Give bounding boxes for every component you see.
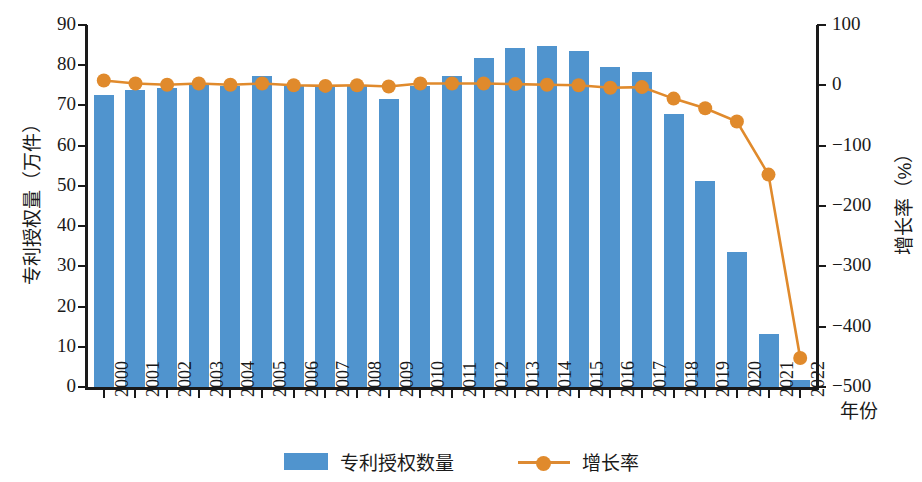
legend-item-bars: 专利授权数量 (284, 448, 454, 475)
x-tickmark (673, 390, 675, 398)
line-marker (318, 79, 332, 93)
y-left-tick-label: 80 (32, 54, 76, 73)
line-marker (223, 78, 237, 92)
x-tickmark (704, 390, 706, 398)
x-tickmark (546, 390, 548, 398)
line-marker (508, 77, 522, 91)
line-marker (192, 77, 206, 91)
y-left-tick-label: 50 (32, 175, 76, 194)
x-tickmark (578, 390, 580, 398)
patent-grant-chart: 专利授权量（万件） 增长率（%） 年份 0102030405060708090 … (0, 0, 922, 482)
x-tick-label: 2009 (397, 361, 418, 397)
y-right-tick-label: 100 (832, 14, 902, 33)
x-tick-label: 2013 (523, 361, 544, 397)
x-tickmark (451, 390, 453, 398)
x-tick-label: 2021 (777, 361, 798, 397)
x-tick-label: 2022 (808, 361, 829, 397)
x-tick-label: 2011 (460, 362, 481, 397)
line-marker (287, 78, 301, 92)
x-tickmark (324, 390, 326, 398)
x-tick-label: 2014 (555, 361, 576, 397)
y-left-tick-label: 0 (32, 376, 76, 395)
x-tickmark (768, 390, 770, 398)
line-marker (572, 78, 586, 92)
x-tick-label: 2003 (207, 361, 228, 397)
y-right-tick-label: −300 (832, 255, 902, 274)
x-tick-label: 2006 (302, 361, 323, 397)
x-tick-label: 2012 (492, 361, 513, 397)
plot-area (88, 25, 816, 387)
x-tick-label: 2004 (238, 361, 259, 397)
x-tickmark (166, 390, 168, 398)
y-left-tick-label: 70 (32, 94, 76, 113)
x-tick-label: 2015 (587, 361, 608, 397)
x-tickmark (641, 390, 643, 398)
legend-bar-swatch (284, 453, 328, 470)
y-left-tick-label: 30 (32, 255, 76, 274)
x-tickmark (198, 390, 200, 398)
line-marker (477, 77, 491, 91)
y-right-tick-label: −100 (832, 135, 902, 154)
line-marker (129, 77, 143, 91)
x-tick-label: 2010 (428, 361, 449, 397)
line-marker (382, 80, 396, 94)
x-tick-label: 2007 (333, 361, 354, 397)
line-marker (730, 115, 744, 129)
x-tick-label: 2008 (365, 361, 386, 397)
x-axis-title: 年份 (840, 396, 878, 423)
y-right-tick-label: −500 (832, 376, 902, 395)
x-tick-label: 2016 (618, 361, 639, 397)
x-tick-label: 2018 (682, 361, 703, 397)
line-marker (445, 77, 459, 91)
line-marker (413, 77, 427, 91)
x-tickmark (134, 390, 136, 398)
legend-line-swatch (518, 455, 570, 469)
x-tickmark (419, 390, 421, 398)
chart-legend: 专利授权数量 增长率 (0, 448, 922, 475)
line-marker (350, 78, 364, 92)
x-tick-label: 2005 (270, 361, 291, 397)
y-right-tick-label: −400 (832, 316, 902, 335)
line-marker (540, 78, 554, 92)
line-marker (698, 101, 712, 115)
growth-rate-line-series (88, 7, 816, 407)
x-tick-label: 2001 (143, 361, 164, 397)
x-tickmark (229, 390, 231, 398)
x-tickmark (293, 390, 295, 398)
y-left-tick-label: 40 (32, 215, 76, 234)
legend-line-label: 增长率 (582, 448, 639, 475)
y-right-tick-label: −200 (832, 195, 902, 214)
x-tick-label: 2017 (650, 361, 671, 397)
x-tickmark (483, 390, 485, 398)
line-marker (635, 80, 649, 94)
x-tickmark (103, 390, 105, 398)
line-marker (255, 77, 269, 91)
legend-bar-label: 专利授权数量 (340, 448, 454, 475)
x-tickmark (514, 390, 516, 398)
line-marker (97, 74, 111, 88)
x-tickmark (799, 390, 801, 398)
line-marker (667, 92, 681, 106)
line-marker (762, 168, 776, 182)
y-right-tick-label: 0 (832, 74, 902, 93)
legend-item-line: 增长率 (518, 448, 639, 475)
y-left-tick-label: 60 (32, 135, 76, 154)
y-left-tick-label: 20 (32, 296, 76, 315)
x-tickmark (736, 390, 738, 398)
x-tickmark (609, 390, 611, 398)
y-left-tick-label: 10 (32, 336, 76, 355)
x-tick-label: 2019 (713, 361, 734, 397)
x-tick-label: 2020 (745, 361, 766, 397)
line-marker (160, 78, 174, 92)
x-tick-label: 2000 (112, 361, 133, 397)
x-tickmark (261, 390, 263, 398)
y-left-tick-label: 90 (32, 14, 76, 33)
y-axis-right-line (816, 25, 819, 390)
x-tick-label: 2002 (175, 361, 196, 397)
x-tickmark (356, 390, 358, 398)
x-tickmark (388, 390, 390, 398)
line-marker (603, 81, 617, 95)
